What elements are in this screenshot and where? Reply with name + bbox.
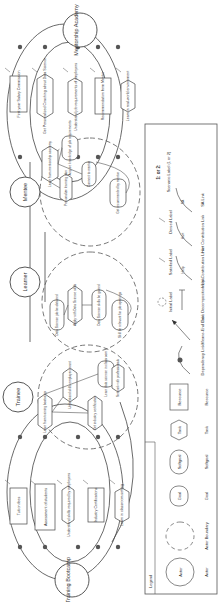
task-learn-from-bootcamp[interactable]: Learn from training bootcamp [38, 391, 52, 433]
svg-text:Connect to mentor: Connect to mentor [87, 160, 91, 187]
svg-text:Get recommended by mentor: Get recommended by mentor [116, 171, 120, 213]
softgoal-skill-relevant[interactable]: Skill be relevant for job openings [112, 292, 128, 338]
resource-industry-certifications[interactable]: Industry Certifications [88, 488, 104, 523]
svg-text:Softgoal: Softgoal [177, 455, 182, 470]
svg-text:Tuition fees: Tuition fees [17, 497, 21, 516]
svg-text:Denied Label: Denied Label [168, 210, 173, 234]
task-personalized-coaching[interactable]: Get Personalized Coaching about Data Sci… [37, 58, 53, 134]
svg-text:First year Salary Commission: First year Salary Commission [17, 71, 21, 118]
svg-text:Task: Task [204, 426, 209, 434]
svg-text:Learn data science in classroo: Learn data science in classroom [104, 351, 108, 397]
actor-training-bootcamp[interactable]: Training Bootcamp [55, 557, 89, 602]
actor-label: Training Bootcamp [65, 557, 71, 602]
actor-label: Trainee [15, 388, 21, 406]
svg-text:Dependency Link: Dependency Link [200, 345, 205, 376]
actor-mentee[interactable]: Mentee [10, 177, 40, 207]
svg-text:Learn from training bootcamp: Learn from training bootcamp [43, 391, 47, 433]
svg-text:Learn in real-world environmen: Learn in real-world environment [126, 71, 130, 122]
task-learn-from-academy[interactable]: Learn from mentorship academy [42, 141, 58, 187]
task-learn-classroom[interactable]: Learn in classroom setting [115, 484, 129, 526]
actor-label: Learner [22, 272, 28, 291]
resource-assessment[interactable]: Assessment of students [35, 484, 55, 530]
svg-text:Resource: Resource [177, 388, 182, 406]
actor-learner[interactable]: Learner [10, 267, 40, 297]
svg-text:1: or 2:: 1: or 2: [156, 164, 161, 180]
svg-text:Goal: Goal [177, 492, 182, 501]
mentee-elements: Learn from mentorship academy Acquire kn… [42, 120, 126, 214]
svg-text:Scenario Label (1 or 2): Scenario Label (1 or 2) [166, 151, 171, 192]
svg-text:Skill be relevant for job open: Skill be relevant for job openings [118, 292, 122, 338]
goal-recommended[interactable]: Get recommended by mentor [110, 171, 126, 213]
svg-text:Softgoal: Softgoal [204, 455, 209, 470]
goal-learn-classroom[interactable]: Learn data science in classroom [98, 351, 114, 397]
svg-text:Industry Certifications: Industry Certifications [94, 488, 98, 523]
svg-text:Task: Task [177, 426, 182, 434]
svg-text:SA Link: SA Link [200, 193, 205, 207]
svg-text:Actor Boundary: Actor Boundary [204, 522, 209, 550]
svg-text:Apply with Data Science skills: Apply with Data Science skills [73, 284, 77, 327]
task-apply-with-skills[interactable]: Apply with Data Science skills [68, 284, 82, 327]
task-understand-skills-employers[interactable]: Understand skills employers want [63, 361, 77, 409]
actor-trainee[interactable]: Trainee [3, 382, 33, 412]
svg-text:Help: Help [181, 266, 185, 273]
learner-elements: Data Science job be obtained Apply with … [50, 284, 128, 339]
svg-text:Hurt: Hurt [181, 233, 185, 240]
svg-text:Data Science job be obtained: Data Science job be obtained [55, 294, 59, 336]
diagram-canvas: Training Bootcamp Trainee Learner Mentee… [0, 0, 221, 602]
svg-text:Actor: Actor [178, 567, 183, 577]
svg-text:Understand job requirements of: Understand job requirements of employers [74, 63, 78, 131]
svg-text:Hurt Contribution Link: Hurt Contribution Link [200, 215, 205, 254]
task-understand-skills[interactable]: Understand skills required by employers [62, 473, 74, 537]
svg-text:Assessment of students: Assessment of students [44, 488, 48, 526]
svg-text:Acquire knowledge of job requi: Acquire knowledge of job requirements [68, 120, 72, 176]
actor-label: Mentee [22, 183, 28, 201]
svg-text:Goal: Goal [204, 492, 209, 501]
svg-text:Satisfied Label: Satisfied Label [168, 249, 173, 275]
task-get-certification[interactable]: Get industry certification [88, 396, 102, 430]
svg-text:Get Personalized Coaching abou: Get Personalized Coaching about Data Sci… [43, 58, 47, 134]
actor-mentorship-academy[interactable]: Mentorship Academy [63, 4, 97, 56]
goal-skills-gained[interactable]: Data Science skills be gained [92, 284, 106, 326]
svg-text:Initial Label: Initial Label [168, 292, 173, 312]
goal-job-obtained[interactable]: Data Science job be obtained [50, 294, 64, 336]
svg-text:Learn from mentorship academy: Learn from mentorship academy [48, 141, 52, 187]
svg-text:Get industry certification: Get industry certification [93, 396, 97, 430]
svg-text:Recommendation from Mentor: Recommendation from Mentor [101, 71, 105, 120]
svg-text:Resource: Resource [204, 388, 209, 406]
legend-title: Legend [148, 575, 153, 588]
svg-text:Personalize learning plan: Personalize learning plan [64, 170, 68, 206]
svg-text:Network with professionals: Network with professionals [116, 359, 120, 397]
svg-text:Actor: Actor [204, 567, 209, 577]
resource-salary-commission[interactable]: First year Salary Commission [10, 71, 27, 118]
svg-text:Data Science skills be gained: Data Science skills be gained [97, 284, 101, 326]
resource-recommendation[interactable]: Recommendation from Mentor [95, 71, 111, 120]
bootcamp-elements: Tuition fees Assessment of students Unde… [10, 473, 129, 537]
legend: Legend Actor Actor Actor Boundary Goal G… [145, 124, 217, 594]
actor-label: Mentorship Academy [73, 4, 79, 56]
svg-text:SA: SA [181, 199, 185, 204]
svg-text:Understand skills required by: Understand skills required by employers [67, 473, 71, 537]
goal-connect-mentor[interactable]: Connect to mentor [82, 160, 96, 187]
svg-text:Learn in classroom setting: Learn in classroom setting [120, 484, 124, 526]
resource-tuition-fees[interactable]: Tuition fees [10, 488, 27, 524]
